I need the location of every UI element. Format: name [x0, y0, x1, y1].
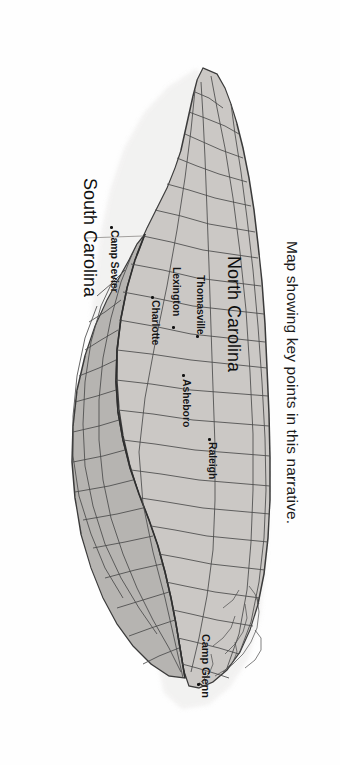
place-label-raleigh: Raleigh — [208, 442, 219, 479]
place-label-camp-sevier: Camp Sevier — [110, 230, 121, 293]
point-marker-raleigh — [208, 438, 211, 441]
place-label-asheboro: Asheboro — [182, 379, 193, 427]
place-label-camp-glenn: Camp Glenn — [200, 634, 211, 698]
map-figure: Camp Glenn Raleigh Asheboro Thomasville … — [45, 38, 295, 728]
place-label-lexington: Lexington — [172, 267, 183, 316]
place-label-charlotte: Charlotte — [151, 300, 162, 345]
state-label-south-carolina: South Carolina — [81, 178, 99, 297]
scanned-page: Camp Glenn Raleigh Asheboro Thomasville … — [0, 0, 340, 765]
point-marker-lexington — [172, 326, 175, 329]
map-stage: Camp Glenn Raleigh Asheboro Thomasville … — [45, 38, 295, 728]
figure-caption-container: Map showing key points in this narrative… — [266, 0, 302, 765]
carolinas-map-graphic — [45, 38, 295, 728]
point-marker-camp-sevier — [110, 226, 113, 229]
point-marker-asheboro — [182, 374, 185, 377]
point-marker-charlotte — [151, 296, 154, 299]
figure-caption: Map showing key points in this narrative… — [282, 0, 302, 765]
place-label-thomasville: Thomasville — [196, 275, 207, 335]
state-label-north-carolina: North Carolina — [225, 256, 243, 372]
